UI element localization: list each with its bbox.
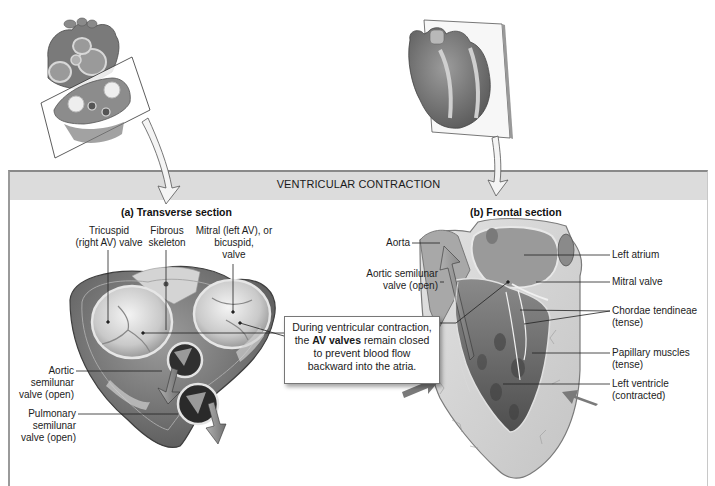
callout-text: remain closed	[361, 334, 429, 346]
label-line: (right AV) valve	[66, 237, 152, 249]
label-pulmonary-semilunar-valve: Pulmonary semilunar valve (open)	[10, 408, 76, 444]
label-line: skeleton	[142, 237, 192, 249]
label-line: semilunar	[10, 377, 74, 389]
av-valves-callout: During ventricular contraction, the AV v…	[284, 316, 440, 384]
label-line: (tense)	[612, 359, 690, 371]
callout-line: the AV valves remain closed	[285, 334, 439, 347]
transverse-section-title: (a) Transverse section	[121, 206, 232, 218]
label-line: valve (open)	[10, 432, 76, 444]
label-mitral-valve-frontal: Mitral valve	[612, 276, 663, 288]
label-line: Tricuspid	[66, 225, 152, 237]
callout-line: to prevent blood flow	[285, 347, 439, 360]
heart-frontal-plane-icon	[409, 20, 513, 196]
label-left-ventricle: Left ventricle (contracted)	[612, 378, 669, 402]
label-line: Pulmonary	[10, 408, 76, 420]
callout-line: During ventricular contraction,	[285, 321, 439, 334]
label-line: valve	[192, 249, 276, 261]
label-aortic-semilunar-valve-frontal: Aortic semilunar valve (open)	[340, 268, 438, 292]
label-aortic-semilunar-valve: Aortic semilunar valve (open)	[10, 365, 74, 401]
label-fibrous-skeleton: Fibrous skeleton	[142, 225, 192, 249]
label-line: Mitral (left AV), or	[192, 225, 276, 237]
frontal-section-title: (b) Frontal section	[470, 206, 562, 218]
label-line: (tense)	[612, 317, 697, 329]
label-papillary-muscles: Papillary muscles (tense)	[612, 347, 690, 371]
label-aorta: Aorta	[370, 237, 410, 249]
label-line: valve (open)	[10, 389, 74, 401]
label-line: semilunar	[10, 420, 76, 432]
label-line: Left ventricle	[612, 378, 669, 390]
label-tricuspid-valve: Tricuspid (right AV) valve	[66, 225, 152, 249]
label-line: Aortic	[10, 365, 74, 377]
label-line: Chordae tendineae	[612, 305, 697, 317]
callout-line: backward into the atria.	[285, 360, 439, 373]
label-line: Papillary muscles	[612, 347, 690, 359]
label-chordae-tendineae: Chordae tendineae (tense)	[612, 305, 697, 329]
label-line: (contracted)	[612, 390, 669, 402]
label-mitral-valve: Mitral (left AV), or bicuspid, valve	[192, 225, 276, 261]
label-line: bicuspid,	[192, 237, 276, 249]
callout-emphasis: AV valves	[312, 334, 361, 346]
callout-text: the	[295, 334, 313, 346]
transverse-section-illustration	[70, 266, 275, 447]
label-line: Fibrous	[142, 225, 192, 237]
label-line: Aortic semilunar	[340, 268, 438, 280]
label-left-atrium: Left atrium	[612, 249, 659, 261]
heart-transverse-cut-icon	[41, 18, 180, 204]
label-line: valve (open)	[340, 280, 438, 292]
